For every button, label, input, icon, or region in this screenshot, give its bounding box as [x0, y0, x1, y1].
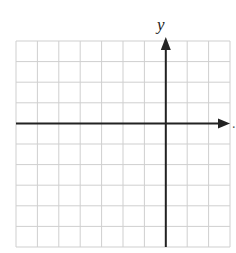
y-axis-label: y	[155, 15, 165, 34]
coordinate-plane: y .	[0, 0, 236, 253]
grid-lines	[16, 41, 230, 247]
x-axis-arrow-icon	[218, 118, 230, 128]
y-axis-arrow-icon	[161, 37, 171, 50]
x-axis-trailing-mark: .	[232, 116, 236, 131]
